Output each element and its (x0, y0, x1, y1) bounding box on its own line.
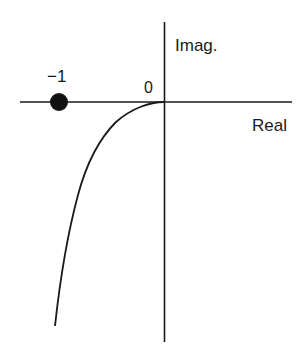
origin-label: 0 (144, 79, 153, 96)
diagram-svg: Imag. Real 0 −1 (0, 0, 308, 360)
critical-point-label: −1 (47, 67, 66, 86)
nyquist-diagram: Imag. Real 0 −1 (0, 0, 308, 360)
real-axis-label: Real (252, 116, 287, 135)
nyquist-curve (55, 102, 164, 326)
critical-point-marker (50, 93, 68, 111)
imag-axis-label: Imag. (175, 36, 218, 55)
